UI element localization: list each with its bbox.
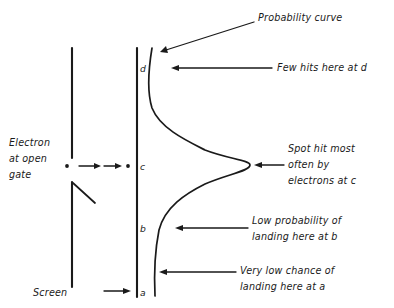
electron-travel-arrow-1 [79, 163, 101, 169]
annotation-spot-hit-c-line3: electrons at c [288, 174, 356, 188]
leader-low-prob-b [175, 225, 248, 231]
electron-travel-arrow-2 [104, 163, 122, 169]
electron-at-open-gate-line1: Electron [9, 136, 50, 150]
screen-point-label-a: a [140, 286, 146, 299]
leader-screen-label [104, 288, 131, 294]
screen-point-label-c: c [140, 160, 145, 173]
leader-probability-curve [160, 22, 254, 53]
annotation-very-low-a-line1: Very low chance of [240, 264, 334, 278]
annotation-spot-hit-c-line2: often by [288, 158, 329, 172]
annotation-very-low-a-line2: landing here at a [240, 280, 325, 294]
screen-label: Screen [33, 286, 67, 300]
probability-curve [149, 48, 250, 296]
electron-probability-diagram: Electron at open gate Screen d c b a Pro… [0, 0, 394, 308]
annotation-few-hits-d: Few hits here at d [277, 61, 367, 75]
leader-few-hits-d [171, 65, 272, 71]
leader-very-low-a [159, 269, 236, 275]
annotation-low-prob-b-line2: landing here at b [252, 230, 338, 244]
leader-spot-hit-c [254, 162, 284, 168]
open-gate-flap [73, 183, 95, 203]
electron-dot-after-gate [126, 164, 130, 168]
screen-point-label-d: d [140, 62, 146, 75]
annotation-spot-hit-c-line1: Spot hit most [288, 142, 355, 156]
annotation-low-prob-b-line1: Low probability of [252, 214, 341, 228]
electron-dot-before-gate [65, 164, 69, 168]
electron-at-open-gate-line2: at open [9, 152, 47, 166]
screen-point-label-b: b [140, 222, 146, 235]
annotation-probability-curve: Probability curve [258, 11, 342, 25]
electron-at-open-gate-line3: gate [9, 168, 31, 182]
